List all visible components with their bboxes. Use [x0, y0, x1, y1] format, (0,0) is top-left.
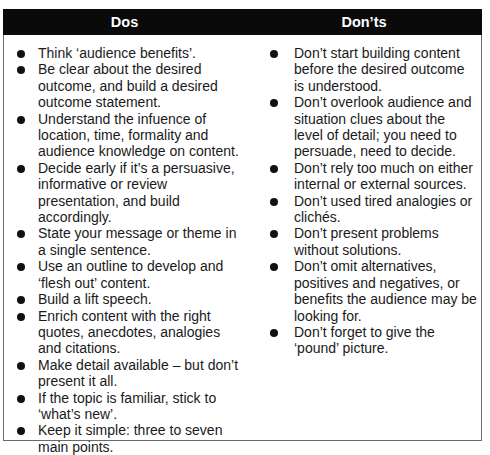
donts-item-text: Don’t start building content before the … — [294, 45, 464, 94]
dos-item: If the topic is familiar, stick to ‘what… — [14, 390, 244, 423]
donts-item: Don’t overlook audience and situation cl… — [267, 94, 477, 160]
dos-item-text: State your message or theme in a single … — [38, 225, 236, 257]
bullet-icon — [270, 50, 278, 58]
dos-item-text: Enrich content with the right quotes, an… — [38, 308, 220, 357]
dos-item: Think ‘audience benefits’. — [14, 45, 244, 61]
dos-header: Dos — [3, 9, 246, 35]
bullet-icon — [17, 165, 25, 173]
donts-item: Don’t start building content before the … — [267, 45, 477, 94]
dos-item: State your message or theme in a single … — [14, 225, 244, 258]
dos-item: Understand the infuence of location, tim… — [14, 111, 244, 160]
dos-item-text: Understand the infuence of location, tim… — [38, 111, 239, 160]
dos-item: Keep it simple: three to seven main poin… — [14, 422, 244, 455]
dos-item-text: If the topic is familiar, stick to ‘what… — [38, 390, 216, 422]
donts-item-text: Don’t overlook audience and situation cl… — [294, 94, 471, 159]
donts-item-text: Don’t used tired analogies or clichés. — [294, 193, 472, 225]
donts-item: Don’t omit alternatives, positives and n… — [267, 258, 477, 324]
bullet-icon — [270, 329, 278, 337]
donts-item-text: Don’t present problems without solutions… — [294, 225, 439, 257]
donts-item: Don’t forget to give the ‘pound’ picture… — [267, 324, 477, 357]
donts-item: Don’t present problems without solutions… — [267, 225, 477, 258]
dos-item-text: Be clear about the desired outcome, and … — [38, 61, 218, 110]
dos-item: Decide early if it’s a persuasive, infor… — [14, 160, 244, 226]
bullet-icon — [270, 198, 278, 206]
bullet-icon — [17, 296, 25, 304]
bullet-icon — [270, 165, 278, 173]
donts-item: Don’t rely too much on either internal o… — [267, 160, 477, 193]
dos-item: Use an outline to develop and ‘flesh out… — [14, 258, 244, 291]
dos-item-text: Make detail available – but don’t presen… — [38, 357, 238, 389]
bullet-icon — [17, 66, 25, 74]
bullet-icon — [270, 230, 278, 238]
dos-item-text: Use an outline to develop and ‘flesh out… — [38, 258, 223, 290]
donts-item-text: Don’t rely too much on either internal o… — [294, 160, 473, 192]
dos-item-text: Keep it simple: three to seven main poin… — [38, 422, 222, 454]
donts-item: Don’t used tired analogies or clichés. — [267, 193, 477, 226]
dos-item: Enrich content with the right quotes, an… — [14, 308, 244, 357]
dos-item: Make detail available – but don’t presen… — [14, 357, 244, 390]
dos-list: Think ‘audience benefits’. Be clear abou… — [14, 45, 244, 455]
dos-item-text: Build a lift speech. — [38, 291, 152, 307]
dos-item-text: Think ‘audience benefits’. — [38, 45, 196, 61]
bullet-icon — [17, 313, 25, 321]
dos-item: Build a lift speech. — [14, 291, 244, 307]
donts-list: Don’t start building content before the … — [267, 45, 477, 357]
donts-item-text: Don’t omit alternatives, positives and n… — [294, 258, 477, 323]
bullet-icon — [17, 116, 25, 124]
bullet-icon — [17, 263, 25, 271]
bullet-icon — [17, 50, 25, 58]
table-header: Dos Don’ts — [3, 9, 482, 35]
bullet-icon — [17, 395, 25, 403]
bullet-icon — [17, 230, 25, 238]
dos-item-text: Decide early if it’s a persuasive, infor… — [38, 160, 235, 225]
donts-header: Don’ts — [246, 9, 482, 35]
bullet-icon — [270, 263, 278, 271]
dos-item: Be clear about the desired outcome, and … — [14, 61, 244, 110]
donts-item-text: Don’t forget to give the ‘pound’ picture… — [294, 324, 435, 356]
bullet-icon — [17, 427, 25, 435]
bullet-icon — [270, 99, 278, 107]
bullet-icon — [17, 362, 25, 370]
